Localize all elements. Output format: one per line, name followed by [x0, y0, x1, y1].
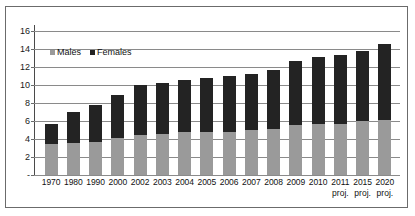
bar-segment-males[interactable]	[156, 134, 169, 175]
x-axis-year: 1980	[64, 177, 83, 187]
stacked-bar[interactable]	[45, 124, 58, 175]
bar-segment-females[interactable]	[200, 78, 213, 132]
x-axis-tick-label: 1980	[62, 177, 84, 211]
chart-legend: MalesFemales	[50, 47, 132, 57]
bar-segment-females[interactable]	[156, 83, 169, 133]
legend-label: Females	[97, 47, 132, 57]
bar-segment-males[interactable]	[267, 129, 280, 175]
bar-segment-males[interactable]	[134, 135, 147, 175]
bar-segment-males[interactable]	[245, 130, 258, 175]
x-axis-projection-note: proj.	[329, 188, 351, 199]
y-axis-tick-label: 8	[25, 99, 30, 108]
bar-segment-females[interactable]	[312, 57, 325, 124]
stacked-bar[interactable]	[200, 78, 213, 175]
y-axis-tick-label: 16	[20, 27, 30, 36]
bar-segment-females[interactable]	[289, 61, 302, 125]
x-axis-tick-label: 2000	[107, 177, 129, 211]
bar-segment-males[interactable]	[111, 138, 124, 175]
x-axis-tick-label: 2011proj.	[329, 177, 351, 211]
x-axis-year: 2011	[331, 177, 349, 187]
x-axis-year: 2006	[220, 177, 239, 187]
stacked-bar[interactable]	[223, 76, 236, 175]
x-axis-year: 2008	[264, 177, 283, 187]
x-axis-tick-label: 2004	[174, 177, 196, 211]
stacked-bar[interactable]	[378, 44, 391, 175]
stacked-bar[interactable]	[289, 61, 302, 175]
x-axis-tick-label: 2002	[129, 177, 151, 211]
x-axis-tick-label: 1970	[40, 177, 62, 211]
stacked-bar[interactable]	[67, 112, 80, 175]
bar-segment-females[interactable]	[67, 112, 80, 143]
x-axis-tick-label: 2006	[218, 177, 240, 211]
x-axis-year: 2015	[353, 177, 372, 187]
stacked-bar[interactable]	[156, 83, 169, 175]
bar-segment-males[interactable]	[89, 142, 102, 175]
legend-swatch-icon	[50, 50, 55, 55]
chart-frame: -246810121416 MalesFemales 1970198019902…	[5, 6, 408, 208]
bar-segment-males[interactable]	[289, 125, 302, 175]
bar-slot	[196, 25, 218, 175]
bar-slot	[174, 25, 196, 175]
x-axis-projection-note: proj.	[374, 188, 396, 199]
bar-segment-males[interactable]	[334, 124, 347, 175]
x-axis-tick-label: 2003	[151, 177, 173, 211]
bar-slot	[151, 25, 173, 175]
x-axis-tick-label: 2009	[285, 177, 307, 211]
x-axis-tick-label: 2008	[263, 177, 285, 211]
bar-segment-females[interactable]	[245, 74, 258, 130]
bar-segment-females[interactable]	[378, 44, 391, 120]
bar-segment-females[interactable]	[134, 85, 147, 135]
bar-slot	[218, 25, 240, 175]
bar-segment-females[interactable]	[45, 124, 58, 145]
stacked-bar[interactable]	[334, 55, 347, 175]
bar-slot	[374, 25, 396, 175]
bar-segment-females[interactable]	[267, 70, 280, 129]
stacked-bar[interactable]	[356, 51, 369, 175]
x-axis-tick-label: 2005	[196, 177, 218, 211]
x-axis-projection-note: proj.	[352, 188, 374, 199]
bar-slot	[129, 25, 151, 175]
bar-segment-males[interactable]	[223, 132, 236, 175]
bar-segment-males[interactable]	[178, 132, 191, 175]
bar-segment-females[interactable]	[89, 105, 102, 142]
bar-segment-females[interactable]	[111, 95, 124, 138]
stacked-bar[interactable]	[312, 57, 325, 175]
gridline	[34, 175, 400, 176]
bar-segment-males[interactable]	[45, 144, 58, 175]
x-axis-year: 2002	[131, 177, 150, 187]
x-axis-tick-label: 2015proj.	[352, 177, 374, 211]
y-axis-tick-label: 4	[25, 135, 30, 144]
bar-segment-males[interactable]	[312, 124, 325, 175]
x-axis-year: 2005	[197, 177, 216, 187]
y-axis-tick-label: 14	[20, 45, 30, 54]
x-axis-year: 2003	[153, 177, 172, 187]
legend-swatch-icon	[90, 50, 95, 55]
stacked-bar[interactable]	[134, 85, 147, 175]
stacked-bar[interactable]	[245, 74, 258, 175]
y-tick-mark	[31, 175, 34, 176]
y-axis-tick-label: 6	[25, 117, 30, 126]
legend-label: Males	[57, 47, 81, 57]
stacked-bar[interactable]	[89, 105, 102, 175]
stacked-bar[interactable]	[267, 70, 280, 175]
x-axis-tick-label: 2007	[240, 177, 262, 211]
bar-segment-males[interactable]	[378, 120, 391, 175]
legend-item-males: Males	[50, 47, 81, 57]
bar-segment-males[interactable]	[200, 132, 213, 175]
bar-segment-males[interactable]	[356, 121, 369, 175]
x-axis-year: 1970	[42, 177, 61, 187]
x-axis-tick-label: 1990	[85, 177, 107, 211]
legend-item-females: Females	[90, 47, 132, 57]
bar-segment-females[interactable]	[334, 55, 347, 123]
bar-segment-females[interactable]	[356, 51, 369, 121]
bar-segment-males[interactable]	[67, 143, 80, 175]
x-axis-year: 2004	[175, 177, 194, 187]
stacked-bar[interactable]	[111, 95, 124, 175]
bar-slot	[329, 25, 351, 175]
stacked-bar[interactable]	[178, 80, 191, 175]
bar-segment-females[interactable]	[223, 76, 236, 132]
x-axis-year: 1990	[86, 177, 105, 187]
x-axis-year: 2007	[242, 177, 261, 187]
bar-segment-females[interactable]	[178, 80, 191, 132]
x-axis-year: 2020	[375, 177, 394, 187]
